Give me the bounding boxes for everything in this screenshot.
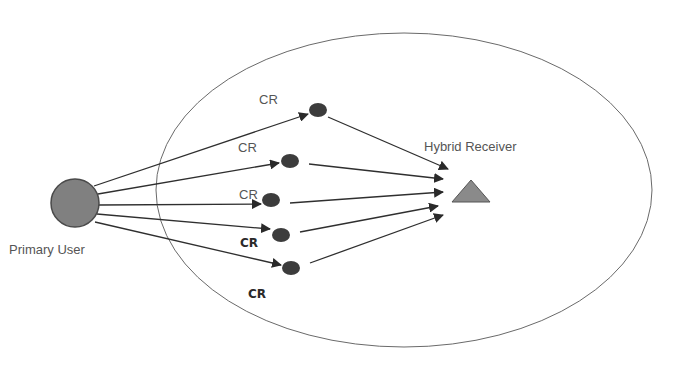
- cr-node-label: CR: [240, 236, 258, 250]
- cr-to-receiver-arrow-4: [300, 206, 438, 232]
- primary-to-cr-links: [94, 114, 308, 265]
- cr-node-dot-icon: [309, 103, 327, 117]
- cr-to-receiver-arrow-2: [309, 164, 443, 179]
- cr-node-2: CR: [238, 140, 299, 168]
- primary-user-icon: [51, 179, 99, 227]
- cr-node-5: CR: [248, 261, 300, 301]
- cr-to-receiver-arrow-5: [310, 215, 443, 263]
- primary-to-cr-arrow-3: [99, 204, 261, 205]
- cr-node-dot-icon: [272, 228, 290, 242]
- hybrid-receiver-label: Hybrid Receiver: [424, 139, 517, 154]
- cr-node-label: CR: [259, 92, 278, 107]
- cr-node-label: CR: [248, 287, 266, 301]
- coverage-area-ellipse: [156, 33, 652, 347]
- cr-nodes: CRCRCRCRCR: [238, 92, 327, 301]
- cr-node-dot-icon: [281, 154, 299, 168]
- cr-node-dot-icon: [282, 261, 300, 275]
- primary-user-node: Primary User: [9, 179, 99, 257]
- primary-to-cr-arrow-1: [94, 114, 308, 186]
- cr-node-label: CR: [238, 140, 257, 155]
- cr-node-1: CR: [259, 92, 327, 117]
- cr-node-dot-icon: [262, 193, 280, 207]
- cr-node-label: CR: [239, 187, 258, 202]
- hybrid-receiver-triangle-icon: [452, 180, 490, 202]
- cognitive-radio-network-diagram: Primary User CRCRCRCRCR Hybrid Receiver: [0, 0, 680, 367]
- cr-to-receiver-arrow-3: [290, 192, 443, 203]
- primary-to-cr-arrow-4: [97, 214, 270, 229]
- primary-user-label: Primary User: [9, 242, 86, 257]
- cr-node-4: CR: [240, 228, 290, 250]
